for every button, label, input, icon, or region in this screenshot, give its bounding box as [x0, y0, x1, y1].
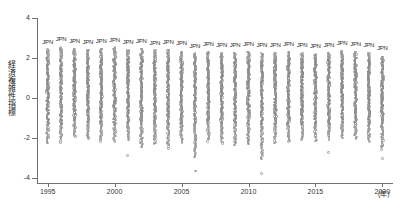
data-point — [46, 48, 49, 51]
year-column — [135, 0, 147, 212]
data-point — [127, 139, 130, 142]
plot-area: JPNJPNJPNJPNJPNJPNJPNJPNJPNJPNJPNJPNJPNJ… — [0, 0, 401, 212]
year-column — [256, 0, 268, 212]
year-column — [229, 0, 241, 212]
data-point — [368, 52, 371, 55]
year-column — [376, 0, 388, 212]
jpn-annotation-label: JPN — [109, 37, 120, 43]
year-column — [283, 0, 295, 212]
jpn-annotation-label: JPN — [149, 40, 160, 46]
jpn-annotation-label: JPN — [297, 42, 308, 48]
year-column — [42, 0, 54, 212]
year-column — [189, 0, 201, 212]
year-column — [95, 0, 107, 212]
year-column — [216, 0, 228, 212]
year-column — [202, 0, 214, 212]
year-column — [296, 0, 308, 212]
data-point — [381, 56, 384, 59]
jpn-annotation-label: JPN — [176, 40, 187, 46]
jpn-annotation-label: JPN — [163, 39, 174, 45]
year-column — [109, 0, 121, 212]
year-column — [68, 0, 80, 212]
data-point — [167, 49, 170, 52]
data-point — [274, 52, 277, 55]
data-point — [301, 52, 304, 55]
data-point — [100, 48, 103, 51]
jpn-annotation-label: JPN — [364, 42, 375, 48]
jpn-annotation-label: JPN — [230, 42, 241, 48]
jpn-annotation-label: JPN — [350, 41, 361, 47]
data-point — [355, 136, 358, 139]
jpn-annotation-label: JPN — [243, 41, 254, 47]
data-point — [327, 52, 330, 55]
data-point-outlier — [194, 170, 197, 173]
data-point — [154, 49, 157, 52]
year-column — [149, 0, 161, 212]
data-point — [315, 53, 318, 56]
data-point-outlier — [260, 172, 263, 175]
data-point — [114, 46, 117, 49]
jpn-annotation-label: JPN — [203, 41, 214, 47]
year-column — [176, 0, 188, 212]
year-column — [336, 0, 348, 212]
jpn-annotation-label: JPN — [96, 38, 107, 44]
data-point-outlier — [327, 151, 330, 154]
data-point — [194, 52, 197, 55]
jpn-annotation-label: JPN — [283, 41, 294, 47]
jpn-annotation-label: JPN — [136, 38, 147, 44]
jpn-annotation-label: JPN — [323, 42, 334, 48]
year-column — [122, 0, 134, 212]
data-point — [328, 138, 331, 141]
year-column — [82, 0, 94, 212]
jpn-annotation-label: JPN — [56, 36, 67, 42]
data-point — [380, 148, 383, 151]
jpn-annotation-label: JPN — [377, 45, 388, 51]
data-point — [87, 49, 90, 52]
data-point — [315, 139, 318, 142]
data-point — [341, 137, 344, 140]
jpn-annotation-label: JPN — [42, 39, 53, 45]
jpn-annotation-label: JPN — [270, 42, 281, 48]
year-column — [363, 0, 375, 212]
data-point — [181, 51, 184, 54]
jpn-annotation-label: JPN — [310, 43, 321, 49]
data-point — [328, 130, 331, 133]
economic-complexity-scatter-chart: 経済複雑性指標 420-2-4 199520002005201020152020… — [0, 0, 401, 212]
data-point — [140, 126, 143, 129]
jpn-annotation-label: JPN — [83, 39, 94, 45]
data-point — [206, 140, 209, 143]
jpn-annotation-label: JPN — [123, 39, 134, 45]
year-column — [269, 0, 281, 212]
year-column — [55, 0, 67, 212]
year-column — [309, 0, 321, 212]
data-point-outlier — [126, 154, 129, 157]
jpn-annotation-label: JPN — [337, 40, 348, 46]
jpn-annotation-label: JPN — [216, 42, 227, 48]
year-column — [350, 0, 362, 212]
year-column — [323, 0, 335, 212]
data-point — [287, 51, 290, 54]
jpn-annotation-label: JPN — [256, 42, 267, 48]
year-column — [162, 0, 174, 212]
jpn-annotation-label: JPN — [69, 38, 80, 44]
data-point — [140, 48, 143, 51]
data-point-outlier — [381, 157, 384, 160]
jpn-annotation-label: JPN — [190, 43, 201, 49]
year-column — [242, 0, 254, 212]
